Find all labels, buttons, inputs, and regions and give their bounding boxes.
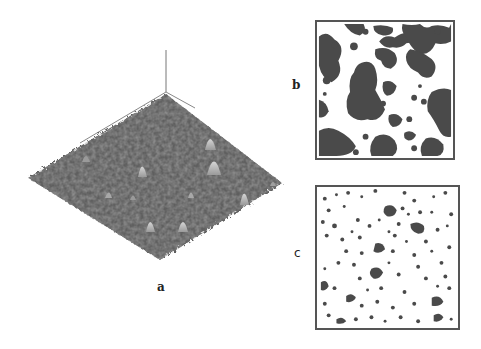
panel-c-binary-map <box>315 185 460 330</box>
binary-map-fine <box>315 185 460 330</box>
binary-map-coarse <box>315 20 455 160</box>
panel-label-b: b <box>292 78 300 92</box>
panel-b-binary-map <box>315 20 455 160</box>
surface-plot <box>0 0 300 300</box>
panel-label-c: c <box>294 246 301 260</box>
panel-label-a: a <box>157 280 165 294</box>
panel-a-3d-surface: a <box>0 0 300 300</box>
